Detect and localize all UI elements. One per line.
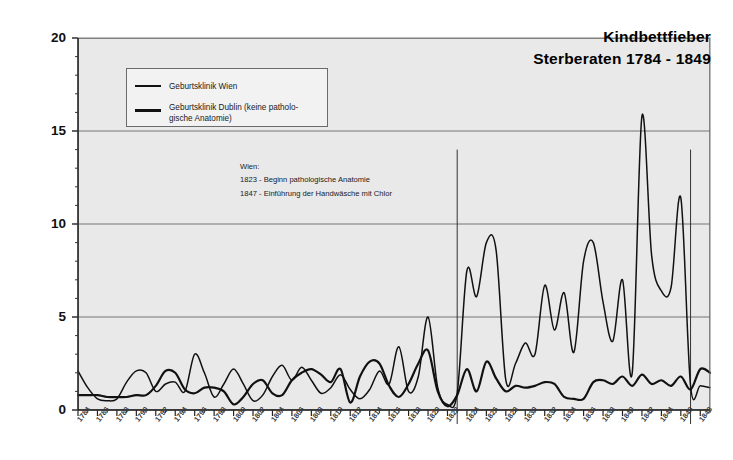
y-tick-label: 10 xyxy=(38,217,66,231)
y-tick-label: 20 xyxy=(38,31,66,45)
y-tick-label: 5 xyxy=(38,310,66,324)
annotation-line-1823: 1823 - Beginn pathologische Anatomie xyxy=(240,173,392,186)
chart-title-block: Kindbettfieber Sterberaten 1784 - 1849 xyxy=(533,26,711,71)
annotation-heading: Wien: xyxy=(240,160,392,173)
legend-swatch-dublin xyxy=(135,109,161,112)
legend-label-dublin-line1: Geburtsklinik Dublin (keine patholo- xyxy=(169,103,298,112)
annotation-line-1847: 1847 - Einführung der Handwäsche mit Chl… xyxy=(240,187,392,200)
annotation-block: Wien: 1823 - Beginn pathologische Anatom… xyxy=(240,160,392,200)
legend-swatch-wien xyxy=(135,85,161,87)
chart-subtitle: Sterberaten 1784 - 1849 xyxy=(533,48,711,70)
chart-figure: Anteil der Patientinnen in %, die an Kin… xyxy=(0,0,733,460)
legend-label-dublin: Geburtsklinik Dublin (keine patholo- gis… xyxy=(169,102,321,124)
legend: Geburtsklinik Wien Geburtsklinik Dublin … xyxy=(126,68,328,127)
legend-label-wien: Geburtsklinik Wien xyxy=(169,81,321,92)
y-tick-label: 0 xyxy=(38,403,66,417)
chart-title: Kindbettfieber xyxy=(533,26,711,48)
y-tick-label: 15 xyxy=(38,124,66,138)
legend-label-dublin-line2: gische Anatomie) xyxy=(169,114,232,123)
